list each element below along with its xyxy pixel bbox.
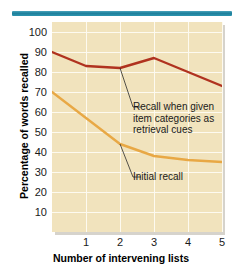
- y-tick-label: 100: [29, 27, 47, 38]
- x-tick-label: 5: [219, 236, 225, 248]
- y-tick-label: 90: [35, 47, 47, 58]
- x-tick-label: 3: [151, 236, 157, 248]
- y-tick-label: 60: [35, 107, 47, 118]
- annotation-line: Initial recall: [133, 171, 218, 183]
- annotation-initial-recall: Initial recall: [133, 171, 218, 183]
- leader-line-cued-recall: [120, 68, 133, 107]
- x-tick-label: 1: [83, 236, 89, 248]
- y-tick-label: 70: [35, 87, 47, 98]
- y-tick-label: 40: [35, 147, 47, 158]
- y-tick-label: 50: [35, 127, 47, 138]
- x-axis-tick-labels: 1 2 3 4 5: [52, 236, 222, 252]
- x-axis-title: Number of intervening lists: [0, 252, 242, 264]
- leader-line-initial-recall: [120, 144, 133, 177]
- annotation-line: item categories as: [133, 113, 225, 125]
- annotation-line: Recall when given: [133, 101, 225, 113]
- x-tick-label: 2: [117, 236, 123, 248]
- annotation-cued-recall: Recall when given item categories as ret…: [133, 101, 225, 136]
- annotation-line: retrieval cues: [133, 124, 225, 136]
- y-tick-label: 80: [35, 67, 47, 78]
- y-tick-label: 10: [35, 207, 47, 218]
- y-tick-label: 20: [35, 187, 47, 198]
- y-tick-label: 30: [35, 167, 47, 178]
- y-axis-tick-labels: 100 90 80 70 60 50 40 30 20 10: [0, 0, 52, 232]
- chart-figure: Percentage of words recalled 100 90 80 7…: [0, 0, 242, 270]
- x-tick-label: 4: [185, 236, 191, 248]
